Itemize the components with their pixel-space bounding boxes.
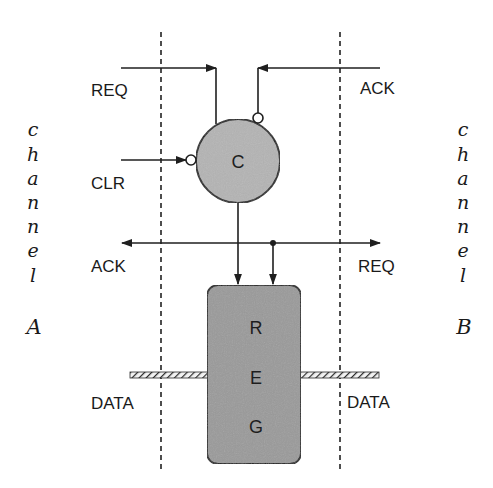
label-data-b: DATA <box>347 393 390 412</box>
channel-a-label: c h a n n e l A <box>24 118 41 339</box>
label-req-a: REQ <box>91 81 128 100</box>
channel-b-id: B <box>455 315 471 339</box>
channel-a-letter: c <box>28 118 39 140</box>
channel-a-id: A <box>24 315 41 339</box>
c-element-label: C <box>232 152 245 172</box>
channel-a-letter: n <box>27 215 39 237</box>
ack-inversion-bubble-icon <box>253 113 263 123</box>
channel-a-letter: l <box>30 264 36 286</box>
channel-b-letter: h <box>457 143 469 165</box>
diagram-canvas: c h a n n e l A c h a n n e l B C <box>0 0 493 488</box>
channel-b-letter: n <box>457 215 469 237</box>
register: R E G <box>207 285 301 464</box>
clr-inversion-bubble-icon <box>186 155 196 165</box>
data-bus-in <box>130 372 208 378</box>
channel-a-letter: e <box>27 239 38 261</box>
channel-b-letter: n <box>457 191 469 213</box>
c-element: C <box>196 119 280 203</box>
channel-b-letter: l <box>460 264 466 286</box>
register-letter: R <box>250 318 263 338</box>
channel-b-letter: e <box>457 239 468 261</box>
label-data-a: DATA <box>91 394 134 413</box>
register-letter: E <box>250 368 262 388</box>
data-bus-out <box>300 372 379 378</box>
label-ack-b: ACK <box>360 79 396 98</box>
channel-b-label: c h a n n e l B <box>455 118 471 339</box>
channel-b-letter: a <box>457 167 468 189</box>
channel-a-letter: n <box>27 191 39 213</box>
label-req-b: REQ <box>358 257 395 276</box>
register-letter: G <box>249 417 263 437</box>
channel-a-letter: h <box>27 143 39 165</box>
label-ack-a: ACK <box>91 257 127 276</box>
label-clr: CLR <box>91 174 125 193</box>
channel-b-letter: c <box>458 118 469 140</box>
channel-a-letter: a <box>27 167 38 189</box>
